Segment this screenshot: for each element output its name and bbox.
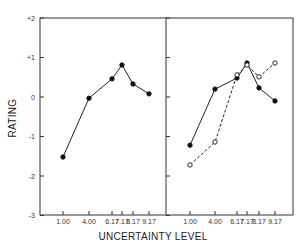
open-data-point bbox=[235, 73, 239, 77]
y-tick-label: 0 bbox=[31, 94, 35, 101]
open-data-point bbox=[213, 140, 217, 144]
y-axis: +2+10-1-2-3 bbox=[27, 15, 170, 220]
open-data-point bbox=[273, 61, 277, 65]
closed-data-point bbox=[110, 77, 114, 81]
x-tick-label: 8.17 bbox=[252, 218, 266, 225]
y-tick-label: +2 bbox=[27, 15, 35, 22]
y-tick-label: -2 bbox=[29, 173, 35, 180]
closed-data-point bbox=[131, 82, 135, 86]
x-tick-label: 1.00 bbox=[183, 218, 197, 225]
closed-series-line bbox=[190, 63, 275, 145]
closed-data-point bbox=[120, 63, 124, 67]
chart-figure: +2+10-1-2-3 1.004.006.177.178.179.17 1.0… bbox=[0, 0, 306, 250]
closed-data-point bbox=[147, 92, 151, 96]
x-tick-label: 4.00 bbox=[82, 218, 96, 225]
right-panel-series bbox=[188, 61, 277, 167]
closed-data-point bbox=[61, 155, 65, 159]
open-data-point bbox=[188, 163, 192, 167]
closed-data-point bbox=[257, 86, 261, 90]
x-tick-label: 4.00 bbox=[208, 218, 222, 225]
x-tick-label: 1.00 bbox=[56, 218, 70, 225]
y-tick-label: -3 bbox=[29, 212, 35, 219]
closed-data-point bbox=[273, 99, 277, 103]
closed-data-point bbox=[213, 87, 217, 91]
x-axis-title: UNCERTAINTY LEVEL bbox=[98, 231, 207, 242]
closed-series-line bbox=[63, 65, 149, 157]
chart-frame bbox=[40, 18, 293, 215]
x-tick-label: 8.17 bbox=[126, 218, 140, 225]
closed-data-point bbox=[188, 143, 192, 147]
y-axis-title: RATING bbox=[7, 99, 18, 138]
open-data-point bbox=[257, 75, 261, 79]
open-series-line bbox=[190, 63, 275, 165]
left-panel-series bbox=[61, 63, 151, 159]
x-tick-label: 9.17 bbox=[142, 218, 156, 225]
y-tick-label: +1 bbox=[27, 54, 35, 61]
closed-data-point bbox=[87, 96, 91, 100]
open-data-point bbox=[245, 63, 249, 67]
x-tick-label: 9.17 bbox=[268, 218, 282, 225]
x-axis-left: 1.004.006.177.178.179.17 bbox=[56, 211, 156, 225]
x-axis-right: 1.004.006.177.178.179.17 bbox=[183, 211, 282, 225]
y-tick-label: -1 bbox=[29, 133, 35, 140]
